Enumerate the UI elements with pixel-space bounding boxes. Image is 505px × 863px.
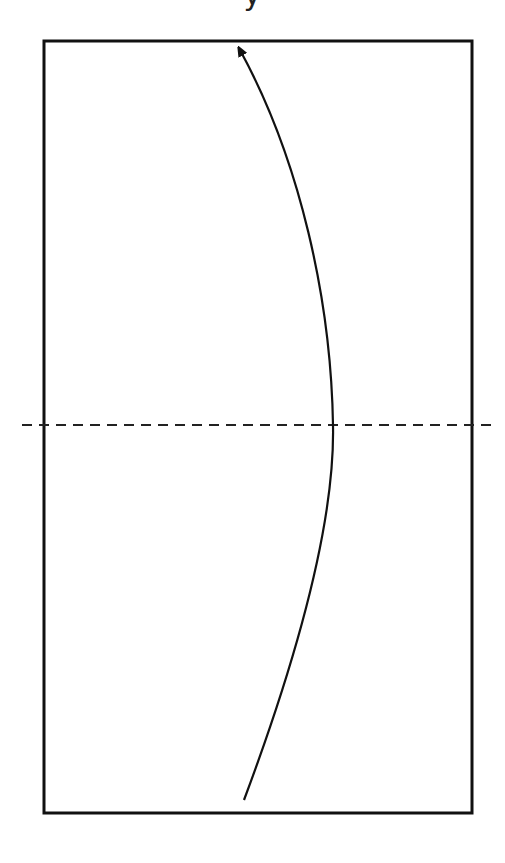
diagram-canvas: [0, 0, 505, 863]
paper-rectangle: [44, 41, 472, 813]
